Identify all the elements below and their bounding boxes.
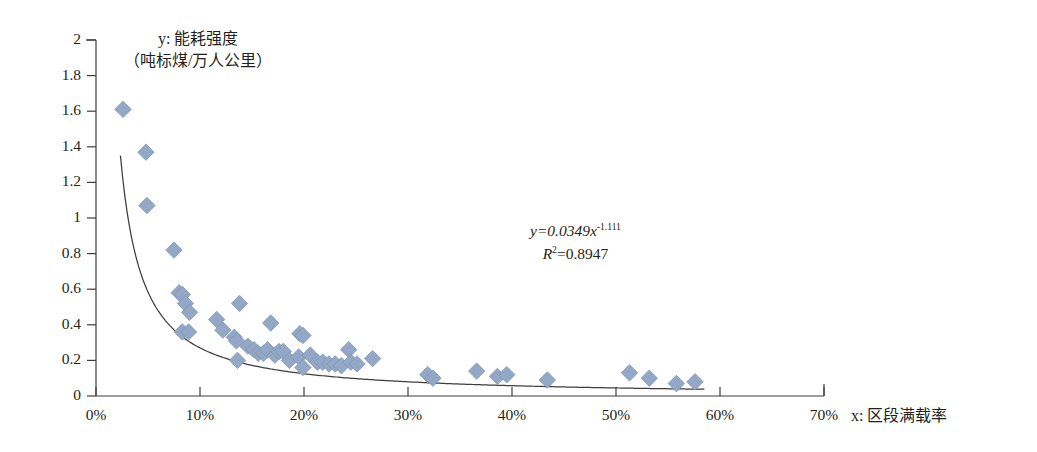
data-point-marker xyxy=(138,144,154,160)
y-tick-label: 1.4 xyxy=(1,137,81,155)
equation-text: y=0.0349x xyxy=(530,222,597,239)
y-tick-label: 1 xyxy=(1,208,81,226)
data-point-marker xyxy=(641,370,657,386)
y-tick-label: 0.4 xyxy=(1,315,81,333)
x-tick-label: 30% xyxy=(368,406,448,424)
y-axis-tick-marks xyxy=(87,40,96,396)
x-tick-label: 50% xyxy=(576,406,656,424)
y-tick-label: 1.8 xyxy=(1,66,81,84)
x-tick-label: 40% xyxy=(472,406,552,424)
x-tick-label: 20% xyxy=(264,406,344,424)
power-trendline xyxy=(120,156,704,390)
axis-lines xyxy=(86,40,824,396)
y-axis-title: y: 能耗强度 （吨标煤/万人公里） xyxy=(124,28,272,71)
regression-equation: y=0.0349x-1.111 xyxy=(530,220,621,243)
x-tick-label: 70% xyxy=(784,406,864,424)
data-point-marker xyxy=(341,342,357,358)
r-squared-value: R2=0.8947 xyxy=(530,243,621,266)
x-axis-title: x: 区段满载率 xyxy=(851,405,947,427)
y-tick-label: 1.6 xyxy=(1,101,81,119)
data-point-marker xyxy=(687,374,703,390)
x-tick-label: 10% xyxy=(160,406,240,424)
data-point-marker xyxy=(229,352,245,368)
data-point-marker xyxy=(115,101,131,117)
y-tick-label: 0.6 xyxy=(1,279,81,297)
data-point-marker xyxy=(231,295,247,311)
x-tick-label: 60% xyxy=(680,406,760,424)
chart-figure: y: 能耗强度 （吨标煤/万人公里） x: 区段满载率 y=0.0349x-1.… xyxy=(0,0,1037,452)
data-point-marker xyxy=(468,363,484,379)
y-axis-title-line1: y: 能耗强度 xyxy=(124,28,272,50)
data-point-marker xyxy=(364,350,380,366)
y-tick-label: 0 xyxy=(1,386,81,404)
data-point-marker xyxy=(539,372,555,388)
data-point-marker xyxy=(139,197,155,213)
data-point-marker xyxy=(166,242,182,258)
data-point-marker xyxy=(263,315,279,331)
equation-exponent: -1.111 xyxy=(597,221,621,232)
x-tick-label: 0% xyxy=(56,406,136,424)
y-axis-title-line2: （吨标煤/万人公里） xyxy=(124,50,272,72)
regression-annotation: y=0.0349x-1.111 R2=0.8947 xyxy=(530,220,621,265)
r-symbol: R xyxy=(543,245,552,262)
x-axis-tick-marks xyxy=(96,387,824,396)
y-tick-label: 2 xyxy=(1,30,81,48)
r-squared-number: =0.8947 xyxy=(557,245,608,262)
y-tick-label: 0.2 xyxy=(1,350,81,368)
data-point-marker xyxy=(621,365,637,381)
y-tick-label: 0.8 xyxy=(1,244,81,262)
y-tick-label: 1.2 xyxy=(1,172,81,190)
